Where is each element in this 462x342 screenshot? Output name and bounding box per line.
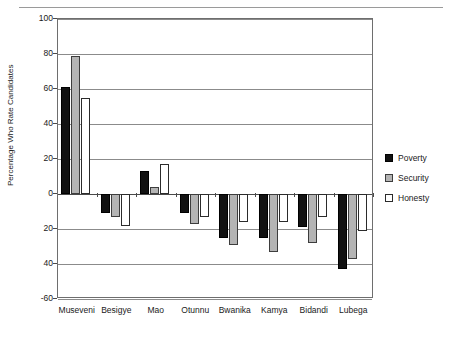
- chart-figure: Percentage Who Rate Candidates 100806040…: [0, 0, 462, 342]
- y-axis-tick-label: 40: [19, 259, 53, 268]
- x-axis-tick-mark: [97, 193, 98, 197]
- x-axis-label-besigye: Besigye: [101, 306, 131, 315]
- y-axis-tick-mark: [53, 53, 57, 54]
- legend-item-security[interactable]: Security: [385, 168, 459, 188]
- bar-poverty-besigye: [101, 194, 110, 213]
- gridline: [58, 229, 372, 230]
- y-axis-tick-label: 0: [19, 189, 53, 198]
- y-axis-tick-mark: [53, 18, 57, 19]
- bar-poverty-lubega: [338, 194, 347, 269]
- y-axis-tick-label: 20: [19, 224, 53, 233]
- gridline: [58, 299, 372, 300]
- bar-honesty-mao: [160, 164, 169, 194]
- y-axis-tick-mark: [53, 88, 57, 89]
- bar-honesty-otunnu: [200, 194, 209, 217]
- header-divider: [19, 7, 443, 8]
- gridline: [58, 54, 372, 55]
- bar-honesty-lubega: [358, 194, 367, 231]
- y-axis-tick-label: 60: [19, 84, 53, 93]
- bar-poverty-kamya: [259, 194, 268, 238]
- legend-item-poverty[interactable]: Poverty: [385, 148, 459, 168]
- y-axis-tick-labels: 1008060402002040-60: [14, 18, 53, 298]
- gridline: [58, 159, 372, 160]
- chart-legend: PovertySecurityHonesty: [385, 148, 459, 208]
- y-axis-tick-label: 80: [19, 49, 53, 58]
- y-axis-tick-label: -60: [19, 294, 53, 303]
- bar-honesty-besigye: [121, 194, 130, 226]
- bar-poverty-otunnu: [180, 194, 189, 213]
- legend-item-honesty[interactable]: Honesty: [385, 188, 459, 208]
- y-axis-tick-label: 40: [19, 119, 53, 128]
- x-axis-label-museveni: Museveni: [59, 306, 95, 315]
- y-axis-tick-mark: [53, 123, 57, 124]
- y-axis-tick-label: 100: [19, 14, 53, 23]
- y-axis-tick-mark: [53, 193, 57, 194]
- legend-label: Honesty: [398, 194, 429, 203]
- x-axis-tick-mark: [294, 193, 295, 197]
- x-axis-tick-mark: [136, 193, 137, 197]
- x-axis-label-kamya: Kamya: [261, 306, 287, 315]
- x-axis-tick-mark: [255, 193, 256, 197]
- y-axis-tick-mark: [53, 228, 57, 229]
- y-axis-tick-label: 20: [19, 154, 53, 163]
- gridline: [58, 264, 372, 265]
- bar-poverty-mao: [140, 171, 149, 194]
- y-axis-tick-mark: [53, 158, 57, 159]
- bar-security-kamya: [269, 194, 278, 252]
- bar-security-besigye: [111, 194, 120, 217]
- x-axis-label-bwanika: Bwanika: [219, 306, 251, 315]
- bar-honesty-bwanika: [239, 194, 248, 222]
- legend-swatch-honesty: [385, 194, 393, 202]
- plot-area: [57, 18, 373, 298]
- x-axis-label-lubega: Lubega: [339, 306, 367, 315]
- bar-poverty-bidandi: [298, 194, 307, 227]
- legend-label: Security: [398, 174, 429, 183]
- x-axis-label-bidandi: Bidandi: [300, 306, 328, 315]
- legend-swatch-poverty: [385, 154, 393, 162]
- y-axis-tick-mark: [53, 298, 57, 299]
- bar-honesty-bidandi: [318, 194, 327, 217]
- legend-label: Poverty: [398, 154, 427, 163]
- bar-security-lubega: [348, 194, 357, 259]
- bar-poverty-museveni: [61, 87, 70, 194]
- y-axis-tick-mark: [53, 263, 57, 264]
- legend-swatch-security: [385, 174, 393, 182]
- bar-security-mao: [150, 187, 159, 194]
- gridline: [58, 19, 372, 20]
- bar-security-otunnu: [190, 194, 199, 224]
- bar-security-bwanika: [229, 194, 238, 245]
- x-axis-tick-mark: [373, 193, 374, 197]
- x-axis-tick-mark: [176, 193, 177, 197]
- x-axis-tick-mark: [215, 193, 216, 197]
- bar-security-museveni: [71, 56, 80, 194]
- gridline: [58, 124, 372, 125]
- bar-honesty-kamya: [279, 194, 288, 222]
- x-axis-label-otunnu: Otunnu: [181, 306, 209, 315]
- bar-poverty-bwanika: [219, 194, 228, 238]
- x-axis-label-mao: Mao: [147, 306, 164, 315]
- bar-honesty-museveni: [81, 98, 90, 194]
- gridline: [58, 89, 372, 90]
- x-axis-tick-mark: [334, 193, 335, 197]
- bar-security-bidandi: [308, 194, 317, 243]
